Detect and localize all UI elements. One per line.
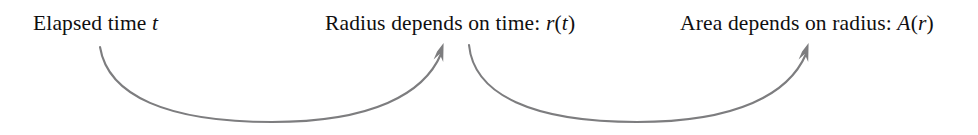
label-area-of-radius-close-paren: ) bbox=[926, 11, 933, 35]
label-elapsed-time-variable: t bbox=[152, 11, 158, 35]
label-radius-of-time-close-paren: ) bbox=[568, 11, 575, 35]
label-radius-of-time: Radius depends on time: r(t) bbox=[325, 13, 575, 35]
label-elapsed-time-prefix: Elapsed time bbox=[33, 11, 152, 35]
time-to-radius-arrow-head bbox=[434, 43, 444, 62]
label-elapsed-time: Elapsed time t bbox=[33, 13, 158, 35]
radius-to-area-arrow-curve bbox=[469, 45, 806, 122]
label-area-of-radius-open-paren: ( bbox=[911, 11, 918, 35]
composition-diagram: Elapsed time t Radius depends on time: r… bbox=[0, 0, 978, 135]
label-area-of-radius-prefix: Area depends on radius: bbox=[680, 11, 897, 35]
label-radius-of-time-open-paren: ( bbox=[555, 11, 562, 35]
time-to-radius-arrow bbox=[100, 43, 444, 122]
label-area-of-radius-variable: A bbox=[897, 11, 910, 35]
radius-to-area-arrow-head bbox=[799, 43, 809, 62]
time-to-radius-arrow-curve bbox=[100, 47, 441, 122]
label-area-of-radius: Area depends on radius: A(r) bbox=[680, 13, 934, 35]
label-radius-of-time-variable: r bbox=[546, 11, 555, 35]
label-radius-of-time-prefix: Radius depends on time: bbox=[325, 11, 546, 35]
radius-to-area-arrow bbox=[469, 43, 809, 122]
